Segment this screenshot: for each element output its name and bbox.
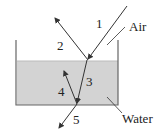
ray-1-incident <box>88 6 127 59</box>
label-ray-5: 5 <box>73 112 80 127</box>
water-body <box>17 61 118 105</box>
label-air: Air <box>129 19 147 34</box>
light-refraction-diagram: 1 2 3 4 5 Air Water <box>0 0 162 139</box>
label-ray-2: 2 <box>57 38 64 53</box>
label-water: Water <box>122 111 153 126</box>
label-ray-4: 4 <box>58 84 65 99</box>
label-ray-3: 3 <box>86 74 93 89</box>
label-ray-1: 1 <box>96 16 103 31</box>
